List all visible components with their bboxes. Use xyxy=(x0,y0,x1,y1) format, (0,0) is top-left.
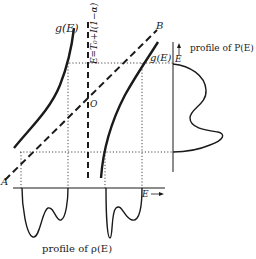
label-point-A: A xyxy=(0,176,8,187)
label-point-B: B xyxy=(155,20,163,31)
label-E-vertical: E xyxy=(174,54,182,64)
label-g-left: g(E) xyxy=(55,22,79,35)
rho-right-profile xyxy=(106,188,142,238)
label-g-right: g(E) xyxy=(150,52,172,63)
label-E-horizontal: E xyxy=(141,189,149,199)
label-origin-O: O xyxy=(90,99,98,109)
rho-left-profile xyxy=(22,188,68,237)
diagram-canvas: g(E) g(E) A B O E=T₀+I(1−α) E E profile … xyxy=(0,0,256,259)
P-profile-curve xyxy=(173,64,223,152)
E-up-arrow-head xyxy=(177,43,181,48)
label-vertical-line: E=T₀+I(1−α) xyxy=(89,2,99,65)
left-g-curve xyxy=(14,28,74,148)
label-profile-P: profile of P(E) xyxy=(190,43,254,53)
dashed-line-AB xyxy=(5,30,157,180)
E-right-arrow-head xyxy=(159,192,164,196)
label-profile-rho: profile of ρ(E) xyxy=(42,243,112,254)
